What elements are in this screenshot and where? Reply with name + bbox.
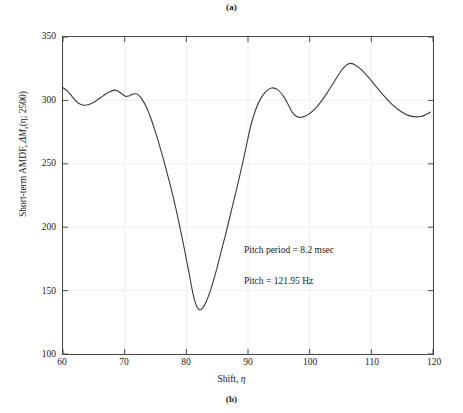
xtick-label: 90 bbox=[233, 357, 263, 367]
xtick-label: 110 bbox=[357, 357, 387, 367]
figure-caption-b: (b) bbox=[0, 394, 463, 404]
xtick-label: 70 bbox=[109, 357, 139, 367]
x-axis-label: Shift, η bbox=[0, 374, 463, 384]
annotation-pitch: Pitch = 121.95 Hz bbox=[244, 276, 313, 286]
y-axis-label: Short-term AMDF, ΔMs(η; 2500) bbox=[18, 54, 30, 254]
figure-caption-a: (a) bbox=[0, 2, 463, 12]
xtick-label: 60 bbox=[47, 357, 77, 367]
chart-data-curve bbox=[63, 37, 433, 354]
ytick-label: 350 bbox=[22, 31, 56, 41]
y-axis-label-prefix: Short-term AMDF, bbox=[18, 143, 28, 217]
y-axis-label-args: (η; 2500) bbox=[18, 91, 28, 126]
x-axis-label-symbol: η bbox=[241, 374, 246, 384]
ytick-label: 150 bbox=[22, 286, 56, 296]
xtick-label: 80 bbox=[171, 357, 201, 367]
y-axis-label-subscript: s bbox=[22, 126, 30, 129]
annotation-pitch-period: Pitch period = 8.2 msec bbox=[244, 245, 334, 255]
xtick-label: 100 bbox=[295, 357, 325, 367]
x-axis-label-prefix: Shift, bbox=[218, 374, 241, 384]
y-axis-label-symbol: ΔM bbox=[18, 129, 28, 143]
xtick-label: 120 bbox=[419, 357, 449, 367]
chart-plot-area bbox=[62, 36, 434, 355]
